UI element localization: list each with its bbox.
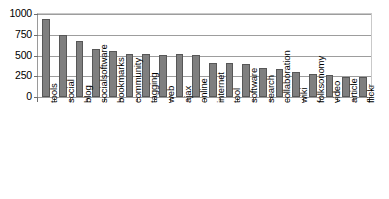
x-axis-label: community (133, 58, 143, 103)
x-axis-label: online (199, 78, 209, 103)
y-tick-label: 250 (15, 69, 32, 81)
x-axis-label: tagging (149, 73, 159, 103)
x-axis-label: socialsoftware (99, 44, 109, 103)
y-axis: 02505007501000 (0, 0, 36, 199)
y-tick-label: 1000 (9, 7, 32, 19)
x-axis-label: article (349, 78, 359, 103)
y-tick-label: 0 (26, 90, 32, 102)
y-tick-label: 500 (15, 49, 32, 61)
y-tick-label: 750 (15, 28, 32, 40)
x-axis-label: bookmarks (116, 57, 126, 103)
x-axis-label: ajax (183, 86, 193, 103)
x-axis-label: social (66, 79, 76, 103)
x-axis-label: tools (49, 83, 59, 103)
x-axis-label: software (249, 68, 259, 103)
x-axis-label: folksonomy (316, 56, 326, 103)
x-axis-label: search (266, 75, 276, 103)
x-tick-mark (37, 98, 38, 102)
x-axis-label: web (166, 86, 176, 103)
x-axis-labels: toolssocialblogsocialsoftwarebookmarksco… (37, 103, 372, 199)
x-axis-label: collaboration (282, 50, 292, 103)
bar-chart: 02505007501000 toolssocialblogsocialsoft… (0, 0, 389, 199)
x-axis-label: video (332, 81, 342, 103)
x-axis-label: internet (216, 72, 226, 103)
x-axis-label: wiki (299, 88, 309, 103)
x-axis-label: blog (83, 85, 93, 103)
x-axis-label: flickr (366, 84, 376, 103)
x-axis-label: tool (232, 88, 242, 103)
